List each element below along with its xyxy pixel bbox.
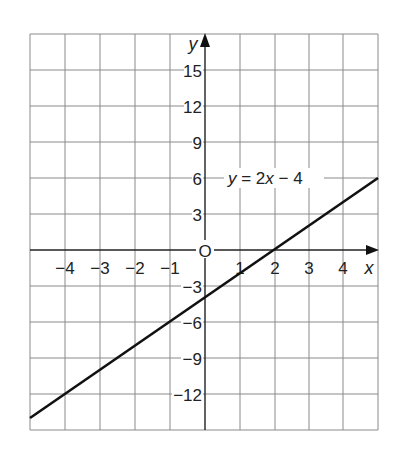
equation-end: − 4	[274, 169, 303, 188]
y-tick-label: 6	[193, 170, 202, 189]
y-tick-labels: 15 12 9 6 3 −3 −6 −9 −12	[172, 61, 203, 405]
x-tick-label: −4	[55, 259, 74, 278]
x-tick-label: −2	[125, 259, 144, 278]
x-axis-label: x	[364, 258, 375, 278]
equation-mid: = 2	[237, 169, 266, 188]
x-tick-label: −1	[160, 259, 179, 278]
y-tick-label: 9	[193, 134, 202, 153]
coordinate-plane: 15 12 9 6 3 −3 −6 −9 −12 −4 −3 −2 −1 1 2…	[0, 0, 399, 452]
x-tick-label: 4	[338, 259, 347, 278]
y-tick-label: 15	[183, 62, 202, 81]
y-tick-label: −12	[173, 386, 202, 405]
grid	[30, 34, 378, 430]
y-axis-label: y	[187, 34, 199, 54]
y-tick-label: −9	[183, 350, 202, 369]
equation-x: x	[264, 169, 274, 188]
equation-label: y = 2x − 4	[227, 169, 303, 188]
y-tick-label: 3	[193, 206, 202, 225]
x-tick-label: −3	[90, 259, 109, 278]
y-tick-label: −3	[183, 278, 202, 297]
y-tick-label: 12	[183, 98, 202, 117]
x-tick-label: 2	[270, 259, 279, 278]
x-tick-labels: −4 −3 −2 −1 1 2 3 4	[55, 259, 347, 278]
x-axis-arrow-icon	[366, 245, 379, 255]
y-tick-label: −6	[183, 314, 202, 333]
y-axis-arrow-icon	[200, 33, 210, 47]
origin-label: O	[198, 242, 211, 261]
x-tick-label: 3	[304, 259, 313, 278]
